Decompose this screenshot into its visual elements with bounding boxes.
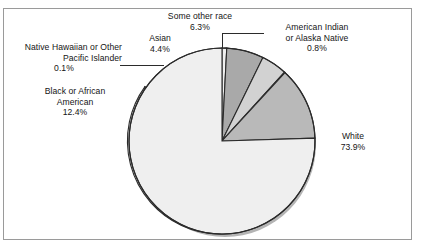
leader-line-american-indian-vertical [222,33,223,48]
label-some-other-race-value: 6.3% [152,22,248,33]
label-black-value: 12.4% [28,107,122,118]
label-some-other-race-name: Some other race [152,11,248,22]
label-nhopi-line1: Native Hawaiian or Other [6,42,122,53]
label-native-hawaiian-pacific-islander: Native Hawaiian or Other Pacific Islande… [6,42,122,74]
label-black-line2: American [28,97,122,108]
pie-chart-figure: Some other race 6.3% American Indian or … [0,0,425,251]
label-asian-value: 4.4% [138,44,182,55]
label-american-indian-value: 0.8% [264,43,370,54]
label-some-other-race: Some other race 6.3% [152,11,248,32]
label-white-value: 73.9% [322,142,384,153]
label-asian-name: Asian [138,33,182,44]
label-asian: Asian 4.4% [138,33,182,54]
label-white-name: White [322,131,384,142]
chart-area: Some other race 6.3% American Indian or … [0,0,425,251]
leader-line-native-hawaiian [120,65,164,66]
label-black-african-american: Black or African American 12.4% [28,86,122,118]
label-black-line1: Black or African [28,86,122,97]
label-nhopi-value: 0.1% [6,63,122,74]
pie-slices [129,48,315,234]
label-american-indian-line2: or Alaska Native [264,33,370,44]
label-american-indian-line1: American Indian [264,22,370,33]
leader-line-american-indian-horizontal [222,33,264,34]
label-nhopi-line2: Pacific Islander [6,53,122,64]
label-american-indian-alaska-native: American Indian or Alaska Native 0.8% [264,22,370,54]
label-white: White 73.9% [322,131,384,152]
